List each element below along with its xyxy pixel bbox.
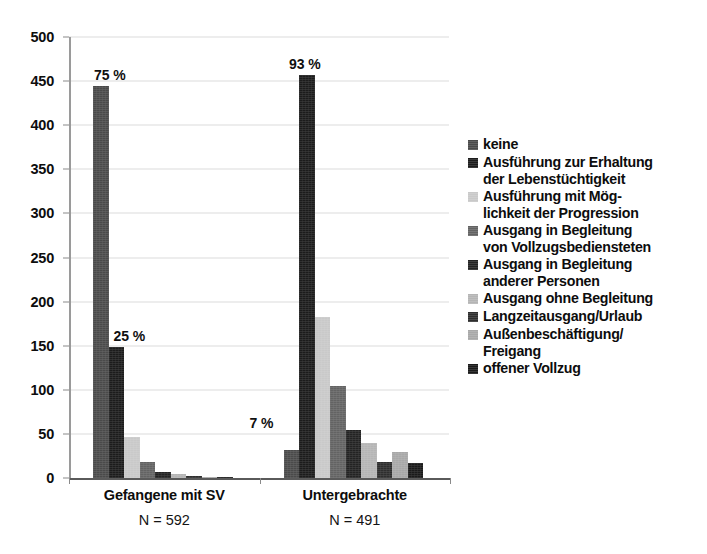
- bar: [93, 86, 109, 478]
- legend-label: Ausführung zur Erhaltung der Lebenstücht…: [483, 154, 653, 187]
- legend-swatch-icon: [468, 226, 478, 236]
- legend-swatch-icon: [468, 312, 478, 322]
- x-axis-tick: [260, 478, 261, 484]
- bar-texture: [315, 317, 331, 478]
- legend-label: Außenbeschäftigung/ Freigang: [483, 326, 623, 359]
- bar: [171, 474, 187, 478]
- legend-item[interactable]: offener Vollzug: [468, 360, 707, 377]
- legend-item[interactable]: Ausführung mit Mög- lichkeit der Progres…: [468, 188, 707, 221]
- legend-label: Langzeitausgang/Urlaub: [483, 308, 642, 325]
- legend-swatch-texture: [468, 192, 478, 202]
- bar-texture: [330, 386, 346, 478]
- y-tick-label: 150: [30, 338, 54, 354]
- legend-swatch-texture: [468, 364, 478, 374]
- bar-value-label: 7 %: [250, 415, 274, 431]
- y-tick-label: 450: [30, 73, 54, 89]
- legend-swatch-texture: [468, 260, 478, 270]
- legend-item[interactable]: Ausgang in Begleitung von Vollzugsbedien…: [468, 222, 707, 255]
- legend-item[interactable]: Ausgang ohne Begleitung: [468, 290, 707, 307]
- bar: [217, 477, 233, 478]
- bar-value-label: 75 %: [94, 67, 126, 83]
- bar: [186, 476, 202, 478]
- bar-texture: [140, 462, 156, 478]
- legend-swatch-icon: [468, 330, 478, 340]
- bar: [315, 317, 331, 478]
- bar: [299, 75, 315, 478]
- bar-texture: [284, 450, 300, 478]
- x-axis-tick: [450, 478, 451, 484]
- legend-swatch-icon: [468, 364, 478, 374]
- x-axis-category-count: N = 592: [54, 512, 274, 528]
- legend-swatch-icon: [468, 260, 478, 270]
- bar: [408, 463, 424, 478]
- bar-texture: [408, 463, 424, 478]
- legend-item[interactable]: Außenbeschäftigung/ Freigang: [468, 326, 707, 359]
- legend-swatch-texture: [468, 294, 478, 304]
- legend-label: Ausgang in Begleitung von Vollzugsbedien…: [483, 222, 651, 255]
- bar: [155, 472, 171, 478]
- legend-swatch-icon: [468, 140, 478, 150]
- legend-item[interactable]: Ausgang in Begleitung anderer Personen: [468, 256, 707, 289]
- y-tick-label: 300: [30, 205, 54, 221]
- bar: [124, 437, 140, 478]
- legend-label: Ausgang in Begleitung anderer Personen: [483, 256, 632, 289]
- legend-label: offener Vollzug: [483, 360, 581, 377]
- x-axis-category-count: N = 491: [245, 512, 465, 528]
- bar: [202, 477, 218, 478]
- x-axis-category-label: Gefangene mit SV: [54, 487, 274, 503]
- y-tick-label: 500: [30, 29, 54, 45]
- x-axis-category-label: Untergebrachte: [245, 487, 465, 503]
- legend-swatch-texture: [468, 226, 478, 236]
- y-tick-label: 250: [30, 250, 54, 266]
- legend-swatch-texture: [468, 140, 478, 150]
- bar: [361, 443, 377, 478]
- y-tick-label: 100: [30, 382, 54, 398]
- bar: [346, 430, 362, 479]
- bar-texture: [93, 86, 109, 478]
- bar-texture: [377, 462, 393, 478]
- bar: [284, 450, 300, 478]
- x-axis-tick: [69, 478, 70, 484]
- bar-value-label: 25 %: [114, 328, 146, 344]
- bar-texture: [392, 452, 408, 478]
- bar-texture: [202, 477, 218, 478]
- y-tick-label: 0: [46, 470, 54, 486]
- legend-swatch-icon: [468, 294, 478, 304]
- y-tick-label: 400: [30, 117, 54, 133]
- legend-item[interactable]: Langzeitausgang/Urlaub: [468, 308, 707, 325]
- bar: [377, 462, 393, 478]
- y-axis: 050100150200250300350400450500: [0, 0, 62, 554]
- y-tick-label: 350: [30, 161, 54, 177]
- bar-texture: [186, 476, 202, 478]
- legend-item[interactable]: keine: [468, 136, 707, 153]
- bar: [392, 452, 408, 478]
- legend-label: keine: [483, 136, 518, 153]
- legend-swatch-texture: [468, 330, 478, 340]
- bar-texture: [124, 437, 140, 478]
- legend-label: Ausgang ohne Begleitung: [483, 290, 653, 307]
- legend-swatch-icon: [468, 158, 478, 168]
- chart-legend: keineAusführung zur Erhaltung der Lebens…: [468, 136, 707, 378]
- bar: [109, 347, 125, 478]
- bars-layer: 75 %25 %7 %93 %: [69, 0, 450, 554]
- y-tick-label: 200: [30, 294, 54, 310]
- bar: [330, 386, 346, 478]
- legend-swatch-texture: [468, 312, 478, 322]
- bar: [140, 462, 156, 478]
- bar-texture: [361, 443, 377, 478]
- bar-texture: [299, 75, 315, 478]
- bar-texture: [109, 347, 125, 478]
- bar-chart-figure: 050100150200250300350400450500 75 %25 %7…: [0, 0, 707, 554]
- legend-swatch-icon: [468, 192, 478, 202]
- bar-texture: [346, 430, 362, 479]
- bar-texture: [217, 477, 233, 478]
- y-tick-label: 50: [38, 426, 54, 442]
- bar-texture: [155, 472, 171, 478]
- legend-swatch-texture: [468, 158, 478, 168]
- legend-label: Ausführung mit Mög- lichkeit der Progres…: [483, 188, 639, 221]
- legend-item[interactable]: Ausführung zur Erhaltung der Lebenstücht…: [468, 154, 707, 187]
- plot-area: 050100150200250300350400450500 75 %25 %7…: [0, 0, 470, 554]
- bar-texture: [171, 474, 187, 478]
- bar-value-label: 93 %: [289, 56, 321, 72]
